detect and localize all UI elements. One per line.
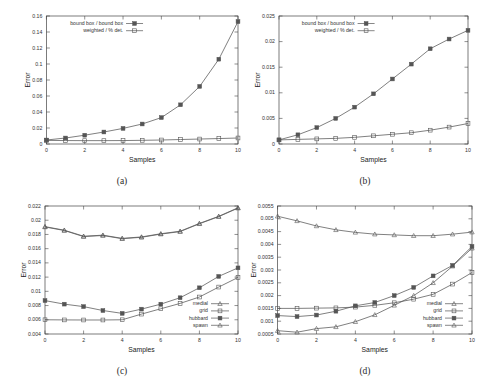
y-tick-label: 0.022: [28, 203, 41, 209]
x-tick-label: 2: [82, 337, 85, 343]
data-marker-filled-square: [334, 309, 338, 313]
y-tick-label: 0.04: [32, 109, 42, 115]
data-marker-filled-square: [83, 133, 87, 137]
y-tick-label: 0.018: [28, 231, 41, 237]
data-marker-filled-square: [315, 126, 319, 130]
legend-label: medial: [193, 300, 208, 306]
data-marker-filled-square: [373, 301, 377, 305]
legend-label: weighted / % det.: [315, 27, 355, 33]
legend-label: spawn: [427, 322, 442, 328]
x-axis-label: Samples: [129, 156, 156, 164]
data-marker-filled-square: [120, 311, 124, 315]
panel-d-caption: (d): [244, 366, 486, 376]
y-tick-label: 0.001: [261, 318, 274, 324]
data-marker-filled-square: [391, 77, 395, 81]
panel-d: 02468100.00050.0010.00150.0020.00250.003…: [248, 196, 478, 364]
y-tick-label: 0.16: [32, 13, 42, 19]
y-tick-label: 0.02: [265, 38, 275, 44]
data-marker-filled-square: [412, 286, 416, 290]
y-tick-label: 0.01: [265, 89, 275, 95]
y-tick-label: 0.003: [261, 267, 274, 273]
data-marker-filled-square: [392, 294, 396, 298]
x-tick-label: 2: [83, 147, 86, 153]
data-marker-filled-square: [159, 116, 163, 120]
series-line: [278, 246, 472, 316]
x-tick-label: 0: [45, 147, 48, 153]
series-line: [278, 248, 472, 332]
data-marker-filled-square: [43, 299, 47, 303]
y-tick-label: 0.1: [35, 61, 42, 67]
panel-c-plot: 02468100.0040.0060.0080.010.0120.0140.01…: [18, 196, 244, 364]
y-axis-label: Error: [254, 72, 261, 88]
x-tick-label: 6: [159, 337, 162, 343]
y-tick-label: 0.0055: [258, 203, 274, 209]
series-line: [279, 30, 468, 140]
figure-container: 024681000.020.040.060.080.10.120.140.16S…: [0, 0, 486, 390]
data-marker-filled-square: [236, 266, 240, 270]
data-marker-filled-square: [133, 22, 137, 26]
panel-b-plot: 024681000.0050.010.0150.020.025SamplesEr…: [252, 6, 474, 174]
data-marker-filled-square: [315, 313, 319, 317]
x-tick-label: 8: [432, 337, 435, 343]
y-tick-label: 0.014: [28, 259, 41, 265]
y-tick-label: 0.025: [262, 13, 275, 19]
data-marker-filled-square: [178, 296, 182, 300]
panel-a-caption: (a): [0, 176, 244, 186]
y-tick-label: 0.004: [261, 241, 274, 247]
series-line: [45, 268, 238, 314]
legend-label: spawn: [193, 322, 208, 328]
y-tick-label: 0.0015: [258, 305, 274, 311]
x-tick-label: 6: [391, 147, 394, 153]
panel-c-caption: (c): [0, 366, 244, 376]
data-marker-filled-square: [159, 302, 163, 306]
legend-label: grid: [433, 307, 442, 313]
y-tick-label: 0.005: [261, 215, 274, 221]
y-tick-label: 0: [40, 141, 43, 147]
y-tick-label: 0.01: [31, 288, 41, 294]
plot-frame: [45, 206, 238, 334]
y-tick-label: 0.0005: [258, 331, 274, 337]
data-marker-filled-square: [217, 57, 221, 61]
y-tick-label: 0.02: [31, 217, 41, 223]
data-marker-filled-square: [179, 103, 183, 107]
y-tick-label: 0.004: [28, 331, 41, 337]
y-tick-label: 0.12: [32, 45, 42, 51]
x-tick-label: 4: [353, 147, 356, 153]
x-tick-label: 10: [235, 147, 241, 153]
legend-label: bound box / bound box: [302, 20, 355, 26]
y-tick-label: 0.08: [32, 77, 42, 83]
x-axis-label: Samples: [128, 346, 155, 354]
data-marker-filled-square: [102, 130, 106, 134]
y-tick-label: 0.0035: [258, 254, 274, 260]
series-line: [45, 277, 238, 320]
data-marker-filled-square: [364, 22, 368, 26]
legend-label: hubbard: [423, 315, 442, 321]
x-tick-label: 2: [315, 337, 318, 343]
y-tick-label: 0.012: [28, 274, 41, 280]
plot-frame: [279, 16, 468, 144]
data-marker-filled-square: [64, 136, 68, 140]
data-marker-filled-square: [428, 47, 432, 51]
panel-a-plot: 024681000.020.040.060.080.10.120.140.16S…: [22, 6, 244, 174]
data-marker-filled-square: [198, 85, 202, 89]
panel-c: 02468100.0040.0060.0080.010.0120.0140.01…: [18, 196, 244, 364]
data-marker-filled-square: [295, 315, 299, 319]
y-tick-label: 0.016: [28, 245, 41, 251]
data-marker-filled-square: [101, 309, 105, 313]
data-marker-filled-square: [452, 316, 456, 320]
x-tick-label: 0: [278, 147, 281, 153]
data-marker-filled-square: [296, 133, 300, 137]
x-tick-label: 2: [315, 147, 318, 153]
y-tick-label: 0.06: [32, 93, 42, 99]
data-marker-filled-square: [431, 274, 435, 278]
data-marker-filled-square: [198, 286, 202, 290]
panel-b: 024681000.0050.010.0150.020.025SamplesEr…: [252, 6, 474, 174]
x-tick-label: 10: [465, 147, 471, 153]
y-tick-label: 0: [272, 141, 275, 147]
data-marker-filled-square: [218, 316, 222, 320]
x-tick-label: 4: [122, 147, 125, 153]
y-tick-label: 0.008: [28, 302, 41, 308]
panel-a: 024681000.020.040.060.080.10.120.140.16S…: [22, 6, 244, 174]
x-tick-label: 8: [429, 147, 432, 153]
y-tick-label: 0.005: [262, 115, 275, 121]
